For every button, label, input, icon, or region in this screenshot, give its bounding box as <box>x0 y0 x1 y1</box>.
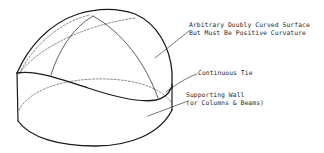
dome-hidden-arc-back <box>19 18 135 74</box>
wall-label: Supporting Wall (or Columns & Beams) <box>186 92 264 107</box>
continuous-tie <box>17 72 171 101</box>
wall-hidden-rim <box>19 79 172 110</box>
tie-label-line1: Continuous Tie <box>198 70 253 78</box>
surface-label-line2: But Must Be Positive Curvature <box>189 30 310 38</box>
wall-left-edge <box>17 73 18 121</box>
surface-label: Arbitrary Doubly Curved Surface But Must… <box>189 22 310 37</box>
dome-meridian-right <box>93 16 158 98</box>
wall-label-line2: (or Columns & Beams) <box>186 100 264 108</box>
dome-meridian-front <box>51 16 93 75</box>
tie-label: Continuous Tie <box>198 70 253 78</box>
leader-wall <box>148 101 188 116</box>
